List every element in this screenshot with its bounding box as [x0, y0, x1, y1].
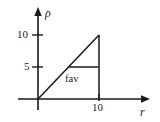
region-label-fav: fav [65, 74, 78, 85]
y-axis [34, 7, 41, 110]
xtick-label-10: 10 [92, 102, 103, 113]
x-axis-label-r: r [140, 106, 145, 118]
ytick-label-10: 10 [17, 29, 28, 40]
density-vs-radius-figure: 10 5 10 ρ r fav [0, 0, 160, 122]
ytick-label-5: 5 [24, 61, 30, 72]
y-axis-label-rho: ρ [45, 7, 51, 19]
